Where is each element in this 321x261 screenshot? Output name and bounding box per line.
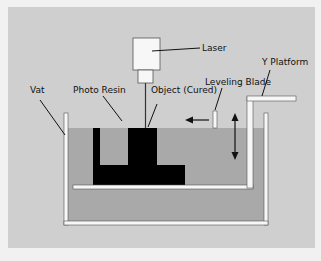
label-photo-resin: Photo Resin — [73, 85, 126, 95]
label-y-platform: Y Platform — [261, 57, 308, 67]
leveling-blade — [213, 111, 217, 128]
stereolithography-diagram: Laser Y Platform Leveling Blade Vat Phot… — [0, 0, 321, 261]
label-laser: Laser — [202, 43, 227, 53]
label-object: Object (Cured) — [151, 85, 217, 95]
label-vat: Vat — [30, 85, 45, 95]
